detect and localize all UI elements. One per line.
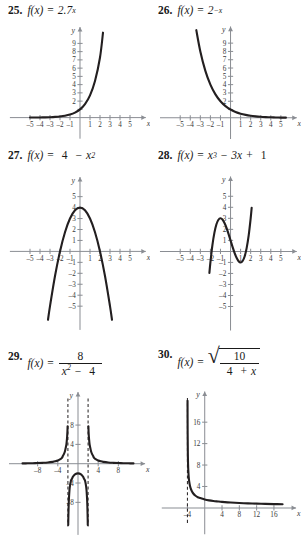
x-axis-label: x [296, 509, 301, 518]
x-tick-label: 1 [239, 121, 243, 129]
graph-canvas-27: xy–5–4–3–2–112345–5–4–3–2–112345 [0, 167, 150, 340]
y-tick-label: –2 [218, 270, 227, 278]
x-tick-label: –8 [33, 467, 42, 475]
y-axis-label: y [221, 25, 226, 34]
x-tick-label: –3 [45, 121, 54, 129]
x-tick-label: –5 [176, 255, 185, 263]
y-tick-label: 1 [223, 237, 227, 245]
graph-canvas-29: xy–8–448–8–448 [0, 388, 150, 539]
x-tick-label: 2 [98, 121, 102, 129]
problem-cell-29: 29. f(x) = 8 x2−4 xy–8–448–8–448 [0, 340, 150, 539]
y-tick-label: 4 [197, 483, 201, 491]
y-tick-label: –3 [68, 281, 77, 289]
x-tick-label: –5 [25, 121, 34, 129]
x-tick-label: 5 [128, 255, 132, 263]
y-axis-arrow [78, 27, 83, 32]
y-tick-label: 3 [72, 215, 76, 223]
graph-30: xy–4481216481216 [150, 388, 301, 539]
x-tick-label: 16 [270, 511, 278, 519]
x-axis-arrow [292, 249, 297, 254]
equals-sign: = [47, 149, 54, 162]
curve-2^-x [196, 30, 286, 117]
equals-sign: = [47, 4, 54, 17]
constant-term: 1 [261, 149, 267, 162]
square-root: √ 10 4+x [208, 348, 260, 377]
equals-sign: = [197, 4, 204, 17]
problem-number-25: 25. [8, 4, 22, 17]
fraction-denominator: x2−4 [59, 365, 102, 377]
leading-constant: 4 [62, 149, 68, 162]
fraction-numerator: 10 [231, 350, 249, 362]
problem-number-30: 30. [158, 348, 172, 361]
problem-heading-27: 27. f(x) = 4 − x2 [0, 145, 150, 162]
x-axis-arrow [292, 115, 297, 120]
problem-grid: 25. f(x) = 2.7x xy–5–4–3–2–1123452345678… [0, 0, 301, 539]
x-tick-label: –4 [53, 467, 62, 475]
x-tick-label: 4 [96, 467, 100, 475]
y-tick-label: 8 [197, 462, 201, 470]
problem-cell-28: 28. f(x) = x3 − 3x + 1 xy–5–4–3–2–112345… [150, 145, 301, 340]
minus-operator: − [76, 149, 83, 162]
x-tick-label: –3 [196, 255, 205, 263]
denominator-constant: 4 [89, 365, 95, 377]
x-axis-arrow [141, 115, 146, 120]
base-value: 2 [208, 4, 214, 17]
function-notation: f(x) [177, 356, 193, 369]
y-tick-label: 5 [223, 73, 227, 81]
exercise-page: 25. f(x) = 2.7x xy–5–4–3–2–1123452345678… [0, 0, 301, 539]
y-axis-arrow [76, 392, 81, 397]
x-tick-label: –2 [206, 121, 215, 129]
graph-canvas-28: xy–5–4–3–2–112345–5–4–3–2–112345 [150, 167, 301, 340]
x-tick-label: 2 [249, 255, 253, 263]
x-tick-label: –3 [196, 121, 205, 129]
y-tick-label: 16 [193, 419, 201, 427]
problem-expression-28: f(x) = x3 − 3x + 1 [177, 149, 270, 162]
x-tick-label: 4 [118, 121, 122, 129]
base-value: 2.7 [58, 4, 72, 17]
minus-operator: − [221, 149, 228, 162]
function-notation: f(x) [27, 149, 43, 162]
graph-26: xy–5–4–3–2–11234523456789 [150, 22, 301, 145]
x-tick-label: –1 [65, 121, 74, 129]
problem-heading-26: 26. f(x) = 2−x [150, 0, 301, 17]
y-tick-label: 8 [70, 422, 74, 430]
y-axis-arrow [228, 27, 233, 32]
fraction-bar [220, 363, 259, 364]
radicand: 10 4+x [219, 348, 260, 377]
problem-heading-28: 28. f(x) = x3 − 3x + 1 [150, 145, 301, 162]
problem-number-27: 27. [8, 149, 22, 162]
linear-term: 3x [231, 149, 242, 162]
y-tick-label: 4 [223, 81, 227, 89]
x-tick-label: 3 [259, 121, 263, 129]
y-tick-label: –1 [68, 259, 77, 267]
problem-expression-30: f(x) = √ 10 4+x [177, 348, 260, 377]
plus-operator: + [246, 149, 253, 162]
y-tick-label: 4 [72, 81, 76, 89]
y-axis-arrow [228, 176, 233, 181]
exponent-value: 2 [67, 363, 71, 372]
graph-canvas-30: xy–4481216481216 [150, 388, 301, 539]
problem-expression-25: f(x) = 2.7x [27, 4, 75, 17]
x-tick-label: –4 [35, 121, 44, 129]
graph-29: xy–8–448–8–448 [0, 388, 150, 539]
y-tick-label: –2 [68, 270, 77, 278]
equals-sign: = [197, 149, 204, 162]
y-tick-label: 8 [223, 48, 227, 56]
x-tick-label: 3 [108, 255, 112, 263]
problem-expression-27: f(x) = 4 − x2 [27, 149, 95, 162]
x-tick-label: –4 [35, 255, 44, 263]
graph-28: xy–5–4–3–2–112345–5–4–3–2–112345 [150, 167, 301, 340]
y-axis-arrow [78, 177, 83, 182]
problem-cell-26: 26. f(x) = 2−x xy–5–4–3–2–11234523456789 [150, 0, 301, 145]
fraction-denominator: 4+x [220, 365, 259, 377]
x-tick-label: 12 [253, 511, 261, 519]
x-tick-label: 5 [128, 121, 132, 129]
x-axis-arrow [292, 505, 297, 510]
problem-cell-25: 25. f(x) = 2.7x xy–5–4–3–2–1123452345678… [0, 0, 150, 145]
y-tick-label: –4 [68, 292, 77, 300]
problem-heading-25: 25. f(x) = 2.7x [0, 0, 150, 17]
x-tick-label: 8 [238, 511, 242, 519]
y-tick-label: 2 [72, 226, 76, 234]
problem-number-28: 28. [158, 149, 172, 162]
problem-heading-29: 29. f(x) = 8 x2−4 [0, 340, 150, 377]
